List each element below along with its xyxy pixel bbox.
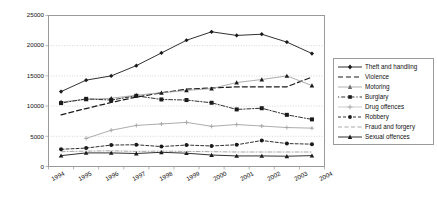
- chart-container: 25000 20000 15000 10000 5000 0 1994 1995…: [0, 0, 437, 206]
- legend-swatch-fraud-and-forgery: [337, 122, 363, 132]
- legend-swatch-robbery: [337, 112, 363, 122]
- series-layer: [59, 30, 315, 158]
- axis-ticks: [46, 16, 325, 170]
- legend-label: Fraud and forgery: [363, 122, 415, 132]
- legend-item-sexual-offences[interactable]: Sexual offences: [337, 132, 431, 142]
- legend-swatch-burglary: [337, 92, 363, 102]
- legend-label: Robbery: [363, 112, 389, 122]
- legend-label: Sexual offences: [363, 132, 410, 142]
- legend-label: Theft and handling: [363, 62, 417, 72]
- legend-item-robbery[interactable]: Robbery: [337, 112, 431, 122]
- legend-item-theft-and-handling[interactable]: Theft and handling: [337, 62, 431, 72]
- legend-item-burglary[interactable]: Burglary: [337, 92, 431, 102]
- legend-swatch-motoring: [337, 82, 363, 92]
- legend-item-drug-offences[interactable]: Drug offences: [337, 102, 431, 112]
- legend-label: Motoring: [363, 82, 390, 92]
- legend-label: Drug offences: [363, 102, 404, 112]
- legend-swatch-drug-offences: [337, 102, 363, 112]
- legend-item-violence[interactable]: Violence: [337, 72, 431, 82]
- legend-swatch-theft-and-handling: [337, 62, 363, 72]
- legend: Theft and handling Violence Motoring Bur…: [333, 58, 434, 145]
- legend-label: Violence: [363, 72, 389, 82]
- legend-swatch-sexual-offences: [337, 132, 363, 142]
- legend-label: Burglary: [363, 92, 388, 102]
- legend-swatch-violence: [337, 72, 363, 82]
- legend-item-motoring[interactable]: Motoring: [337, 82, 431, 92]
- legend-item-fraud-and-forgery[interactable]: Fraud and forgery: [337, 122, 431, 132]
